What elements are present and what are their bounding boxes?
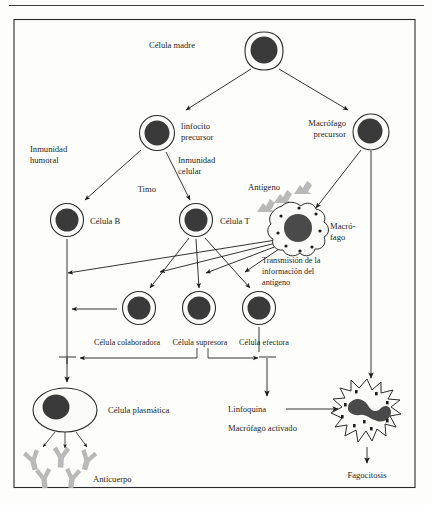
edge-macrophage-to-bcell-path [68, 240, 276, 273]
label-helper-cell: Célula colaboradora [94, 338, 161, 347]
cell-effector [243, 292, 276, 325]
label-activated-macrophage: Macrófago activado [228, 423, 297, 433]
label-lymphocyte-precursor-line2: precursor [181, 132, 214, 142]
label-macrophage-precursor-line1: Macrófago [308, 118, 346, 128]
cell-plasma [33, 388, 97, 432]
edge-stem-to-macrophage-precursor [279, 69, 348, 110]
edge-lymphocyte-to-bcell [85, 150, 141, 200]
cell-helper [123, 292, 156, 325]
cell-lymphocyte-precursor [140, 116, 175, 151]
label-effector-cell: Célula efectora [239, 338, 289, 347]
cell-suppressor [183, 292, 216, 325]
label-antibody: Anticuerpo [93, 474, 132, 484]
cell-macrophage-precursor [353, 114, 389, 150]
cell-stem-cell [245, 32, 283, 70]
label-antigen: Antígeno [248, 182, 280, 192]
label-stem-cell: Célula madre [149, 40, 195, 50]
label-humoral-immunity-line2: humoral [30, 155, 59, 165]
label-lymphokine: Linfoquina [228, 404, 266, 414]
label-thymus: Timo [138, 184, 156, 194]
figure-canvas: Célula madre linfocito precursor Macrófa… [0, 0, 431, 505]
cell-t-cell [180, 204, 213, 237]
edge-macrophage-precursor-to-macrophage [316, 150, 361, 208]
label-t-cell: Célula T [220, 216, 250, 226]
cell-macrophage [268, 202, 329, 256]
edge-plasma-to-antibody-3 [76, 432, 87, 447]
label-cellular-immunity-line1: Inmunidad [178, 155, 216, 165]
edge-tcell-to-suppressor [196, 239, 199, 288]
antibody-particles [22, 446, 98, 489]
immune-response-diagram: Célula madre linfocito precursor Macrófa… [0, 0, 431, 505]
label-transmission-line2: información del [262, 267, 315, 276]
label-macrophage-line2: fago [330, 232, 345, 242]
label-suppressor-cell: Célula supresora [173, 338, 228, 347]
edge-plasma-to-antibody-1 [43, 432, 55, 447]
label-lymphocyte-precursor-line1: linfocito [181, 121, 210, 131]
label-transmission-line3: antígeno [262, 278, 290, 287]
edge-tcell-to-helper [150, 238, 189, 288]
label-humoral-immunity-line1: Inmunidad [30, 144, 68, 154]
cell-b-cell [51, 204, 84, 237]
label-macrophage-precursor-line2: precursor [314, 129, 347, 139]
edge-stem-to-lymphocyte [186, 69, 251, 110]
edge-macrophage-to-helper-path [160, 243, 276, 272]
label-cellular-immunity-line2: celular [178, 166, 202, 176]
label-phagocytosis: Fagocitosis [347, 470, 387, 480]
cell-activated-macrophage [331, 379, 401, 442]
label-plasma-cell: Célula plasmática [108, 405, 170, 415]
label-transmission-line1: Transmisión de la [262, 256, 321, 265]
label-macrophage-line1: Macró- [330, 221, 355, 231]
label-b-cell: Célula B [90, 216, 121, 226]
